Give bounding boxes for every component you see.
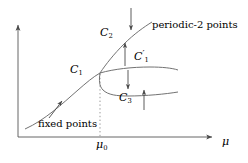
curve-label-c1: C1	[70, 64, 83, 77]
curve-label-c1-prime: C′1	[134, 49, 149, 64]
curve-c3	[99, 73, 178, 96]
curve-label-c2-sub: 2	[108, 32, 112, 40]
curve-label-c1-sub: 1	[78, 69, 82, 77]
x-axis-tick-mu0: μ0	[96, 139, 108, 152]
curve-label-c3-sub: 3	[127, 97, 131, 105]
x-axis-tick-mu0-sub: 0	[103, 144, 107, 152]
arrow-fixed-points	[49, 101, 62, 118]
curve-c1-prime	[100, 67, 178, 73]
curve-label-c2: C2	[100, 27, 113, 40]
curve-label-c3: C3	[119, 92, 132, 105]
x-axis-label: μ	[222, 136, 229, 147]
annotation-fixed-points: fixed points	[38, 119, 97, 129]
curve-label-c1-prime-sub: 1	[145, 56, 149, 64]
annotation-periodic-2-points: periodic-2 points	[152, 20, 238, 30]
bifurcation-diagram-figure: C2 C1 C′1 C3 μ0 μ periodic-2 points fixe…	[0, 0, 248, 163]
